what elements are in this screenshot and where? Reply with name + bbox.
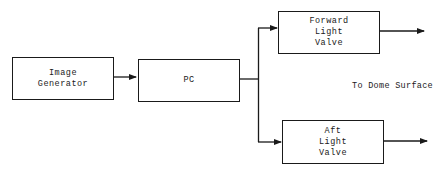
block-label-line: Valve <box>315 38 343 49</box>
block-label-line: Image <box>49 68 77 79</box>
block-label-line: Light <box>315 27 343 38</box>
aft-light-valve-block: Aft Light Valve <box>282 120 384 164</box>
block-label-line: Light <box>319 137 347 148</box>
block-label-line: Aft <box>325 126 342 137</box>
image-generator-block: Image Generator <box>12 57 114 100</box>
block-label-line: Valve <box>319 148 347 159</box>
pc-block: PC <box>138 59 240 102</box>
block-diagram: Image Generator PC Forward Light Valve A… <box>0 0 447 171</box>
forward-light-valve-block: Forward Light Valve <box>278 11 380 54</box>
block-label-line: Forward <box>309 16 348 27</box>
block-label-line: PC <box>183 75 194 86</box>
block-label-line: Generator <box>38 79 88 90</box>
dome-surface-annotation: To Dome Surface <box>352 81 433 91</box>
